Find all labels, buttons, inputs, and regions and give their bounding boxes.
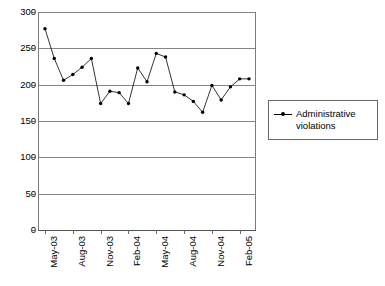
y-tick-mark xyxy=(32,12,36,13)
x-tick-label: Aug-04 xyxy=(188,236,198,267)
data-point xyxy=(145,80,148,83)
y-tick-mark xyxy=(32,48,36,49)
data-point xyxy=(127,102,130,105)
y-axis: 050100150200250300 xyxy=(0,12,36,230)
legend-item-label: Administrative violations xyxy=(296,108,372,131)
x-tick-mark xyxy=(240,230,241,234)
chart-figure: 050100150200250300 May-03Aug-03Nov-03Feb… xyxy=(0,0,385,286)
y-tick-mark xyxy=(32,230,36,231)
series-line xyxy=(45,29,249,113)
x-tick-label: Aug-03 xyxy=(77,236,87,267)
x-tick-mark xyxy=(184,230,185,234)
data-point xyxy=(53,57,56,60)
data-point xyxy=(136,66,139,69)
data-point xyxy=(173,90,176,93)
y-tick-mark xyxy=(32,157,36,158)
x-tick-mark xyxy=(212,230,213,234)
series-administrative-violations xyxy=(38,12,256,230)
data-point xyxy=(201,111,204,114)
x-tick-mark xyxy=(101,230,102,234)
x-tick-label: Nov-03 xyxy=(105,236,115,267)
data-point xyxy=(71,73,74,76)
data-point xyxy=(229,85,232,88)
x-tick-mark xyxy=(45,230,46,234)
data-point xyxy=(43,27,46,30)
x-tick-label: May-03 xyxy=(49,236,59,268)
data-point xyxy=(164,55,167,58)
data-point xyxy=(62,79,65,82)
data-point xyxy=(247,77,250,80)
x-axis: May-03Aug-03Nov-03Feb-04May-04Aug-04Nov-… xyxy=(38,230,256,286)
y-tick-label: 50 xyxy=(2,189,36,199)
y-tick-label: 300 xyxy=(2,7,36,17)
data-point xyxy=(99,102,102,105)
data-point xyxy=(210,84,213,87)
y-tick-label: 250 xyxy=(2,44,36,54)
x-tick-label: May-04 xyxy=(160,236,170,268)
data-point xyxy=(117,91,120,94)
x-tick-label: Nov-04 xyxy=(216,236,226,267)
data-point xyxy=(182,93,185,96)
x-tick-label: Feb-04 xyxy=(132,236,142,266)
plot-area xyxy=(38,12,256,230)
data-point xyxy=(90,57,93,60)
series-markers xyxy=(43,27,250,114)
x-tick-mark xyxy=(73,230,74,234)
y-tick-label: 150 xyxy=(2,116,36,126)
chart-legend: Administrative violations xyxy=(268,100,378,140)
legend-line-marker-icon xyxy=(274,109,292,120)
y-tick-label: 100 xyxy=(2,153,36,163)
y-tick-mark xyxy=(32,121,36,122)
data-point xyxy=(155,52,158,55)
legend-item: Administrative violations xyxy=(274,108,372,131)
x-tick-mark xyxy=(128,230,129,234)
data-point xyxy=(219,98,222,101)
chart-title xyxy=(30,0,280,2)
x-tick-label: Feb-05 xyxy=(244,236,254,266)
data-point xyxy=(192,100,195,103)
data-point xyxy=(108,90,111,93)
y-tick-label: 0 xyxy=(2,225,36,235)
y-tick-label: 200 xyxy=(2,80,36,90)
data-point xyxy=(80,66,83,69)
y-tick-mark xyxy=(32,85,36,86)
data-point xyxy=(238,77,241,80)
x-tick-mark xyxy=(156,230,157,234)
y-tick-mark xyxy=(32,194,36,195)
